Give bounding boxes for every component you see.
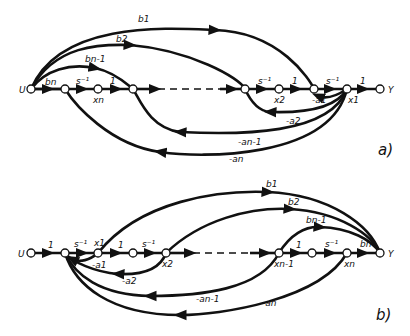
edge-label: s⁻¹ <box>325 239 338 249</box>
gain-label: b2 <box>116 34 128 44</box>
caption-a: a) <box>378 141 393 159</box>
gain-label: -a1 <box>92 260 107 270</box>
edge-label: 1 <box>296 240 302 250</box>
state-label: x1 <box>93 238 105 248</box>
state-label: x2 <box>161 259 173 269</box>
state-label: x2 <box>273 95 285 105</box>
gain-label: -a2 <box>286 116 301 126</box>
node-x2 <box>275 85 283 93</box>
gain-label: -an <box>229 154 244 164</box>
gain-label: -a1 <box>312 95 327 105</box>
input-label: U <box>19 85 26 95</box>
signal-flow-graphs: U Y bn s⁻¹ 1 s⁻¹ 1 s⁻¹ 1 xn x2 x1 b1 b2 … <box>0 0 410 336</box>
edge-label: s⁻¹ <box>326 76 339 86</box>
edge-label: 1 <box>118 240 124 250</box>
edge-label: 1 <box>110 76 116 86</box>
gain-label: b1 <box>266 179 277 189</box>
gain-label: b2 <box>288 197 300 207</box>
edge-label: s⁻¹ <box>74 239 87 249</box>
gain-label: -an <box>262 298 277 308</box>
edge-label: 1 <box>48 240 54 250</box>
edge-label: s⁻¹ <box>142 239 155 249</box>
diagram-a: U Y bn s⁻¹ 1 s⁻¹ 1 s⁻¹ 1 xn x2 x1 b1 b2 … <box>19 14 395 164</box>
state-label: xn <box>343 259 355 269</box>
node-y <box>376 85 384 93</box>
state-label: xn <box>92 95 104 105</box>
output-label: Y <box>388 249 395 259</box>
edge-label: bn <box>360 239 372 249</box>
gain-label: b1 <box>138 14 149 24</box>
gain-label: -an-1 <box>238 137 261 147</box>
edge-label: bn <box>45 77 57 87</box>
input-label: U <box>18 249 25 259</box>
edge-label: s⁻¹ <box>76 76 89 86</box>
gain-label: bn-1 <box>306 215 326 225</box>
node-xn <box>94 85 102 93</box>
diagram-b: U Y 1 s⁻¹ 1 s⁻¹ 1 s⁻¹ bn x1 x2 xn-1 xn b… <box>18 179 395 324</box>
gain-label: bn-1 <box>85 54 105 64</box>
node-x1 <box>343 85 351 93</box>
edge-label: 1 <box>292 76 298 86</box>
edge-label: s⁻¹ <box>258 76 271 86</box>
output-label: Y <box>388 85 395 95</box>
caption-b: b) <box>376 306 391 324</box>
state-label: x1 <box>347 95 359 105</box>
edge-label: 1 <box>360 76 366 86</box>
gain-label: -an-1 <box>196 294 219 304</box>
state-label: xn-1 <box>273 259 294 269</box>
gain-label: -a2 <box>122 276 137 286</box>
node-u <box>27 85 35 93</box>
